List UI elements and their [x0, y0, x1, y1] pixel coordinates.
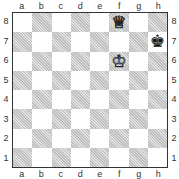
white-queen-icon[interactable]: ♕	[111, 14, 126, 31]
chess-board: ♕♚♔	[12, 12, 168, 168]
square-f5[interactable]	[109, 71, 128, 90]
rank-label-4: 4	[1, 90, 11, 110]
square-a6[interactable]	[13, 52, 32, 71]
square-b4[interactable]	[32, 90, 51, 109]
file-label-g: g	[129, 169, 149, 179]
square-f1[interactable]	[109, 148, 128, 167]
square-c5[interactable]	[52, 71, 71, 90]
file-label-e: e	[90, 169, 110, 179]
square-d2[interactable]	[71, 129, 90, 148]
file-label-g: g	[129, 1, 149, 11]
square-e4[interactable]	[90, 90, 109, 109]
file-label-h: h	[149, 169, 169, 179]
rank-label-8: 8	[169, 12, 179, 32]
square-c1[interactable]	[52, 148, 71, 167]
square-d6[interactable]	[71, 52, 90, 71]
square-h4[interactable]	[148, 90, 167, 109]
square-e8[interactable]	[90, 13, 109, 32]
rank-label-8: 8	[1, 12, 11, 32]
square-e3[interactable]	[90, 109, 109, 128]
square-d1[interactable]	[71, 148, 90, 167]
square-g5[interactable]	[129, 71, 148, 90]
square-h8[interactable]	[148, 13, 167, 32]
square-c4[interactable]	[52, 90, 71, 109]
square-f8[interactable]: ♕	[109, 13, 128, 32]
file-label-c: c	[51, 169, 71, 179]
square-b1[interactable]	[32, 148, 51, 167]
square-a5[interactable]	[13, 71, 32, 90]
rank-label-2: 2	[1, 129, 11, 149]
square-g3[interactable]	[129, 109, 148, 128]
square-a8[interactable]	[13, 13, 32, 32]
rank-label-3: 3	[1, 110, 11, 130]
square-g7[interactable]	[129, 32, 148, 51]
square-f4[interactable]	[109, 90, 128, 109]
file-label-c: c	[51, 1, 71, 11]
square-h1[interactable]	[148, 148, 167, 167]
square-a7[interactable]	[13, 32, 32, 51]
file-label-b: b	[32, 1, 52, 11]
square-e7[interactable]	[90, 32, 109, 51]
square-a3[interactable]	[13, 109, 32, 128]
square-c7[interactable]	[52, 32, 71, 51]
file-label-a: a	[12, 1, 32, 11]
rank-label-5: 5	[1, 71, 11, 91]
square-g2[interactable]	[129, 129, 148, 148]
square-e1[interactable]	[90, 148, 109, 167]
square-b7[interactable]	[32, 32, 51, 51]
square-d8[interactable]	[71, 13, 90, 32]
rank-label-6: 6	[169, 51, 179, 71]
square-b8[interactable]	[32, 13, 51, 32]
square-f3[interactable]	[109, 109, 128, 128]
file-label-d: d	[71, 1, 91, 11]
square-h3[interactable]	[148, 109, 167, 128]
square-g1[interactable]	[129, 148, 148, 167]
square-d5[interactable]	[71, 71, 90, 90]
file-label-h: h	[149, 1, 169, 11]
square-c2[interactable]	[52, 129, 71, 148]
square-b3[interactable]	[32, 109, 51, 128]
black-king-icon[interactable]: ♚	[150, 33, 165, 50]
square-c8[interactable]	[52, 13, 71, 32]
file-label-f: f	[110, 1, 130, 11]
file-label-b: b	[32, 169, 52, 179]
rank-label-1: 1	[1, 149, 11, 169]
square-a1[interactable]	[13, 148, 32, 167]
square-g4[interactable]	[129, 90, 148, 109]
square-g8[interactable]	[129, 13, 148, 32]
rank-label-3: 3	[169, 110, 179, 130]
rank-label-6: 6	[1, 51, 11, 71]
square-c3[interactable]	[52, 109, 71, 128]
file-label-e: e	[90, 1, 110, 11]
square-b2[interactable]	[32, 129, 51, 148]
white-king-icon[interactable]: ♔	[111, 53, 126, 70]
square-e6[interactable]	[90, 52, 109, 71]
square-a4[interactable]	[13, 90, 32, 109]
square-f7[interactable]	[109, 32, 128, 51]
file-label-f: f	[110, 169, 130, 179]
square-g6[interactable]	[129, 52, 148, 71]
square-f6[interactable]: ♔	[109, 52, 128, 71]
square-d4[interactable]	[71, 90, 90, 109]
rank-label-7: 7	[169, 32, 179, 52]
file-label-d: d	[71, 169, 91, 179]
square-d3[interactable]	[71, 109, 90, 128]
square-d7[interactable]	[71, 32, 90, 51]
square-h2[interactable]	[148, 129, 167, 148]
square-h6[interactable]	[148, 52, 167, 71]
rank-label-4: 4	[169, 90, 179, 110]
square-a2[interactable]	[13, 129, 32, 148]
square-e5[interactable]	[90, 71, 109, 90]
square-c6[interactable]	[52, 52, 71, 71]
rank-label-7: 7	[1, 32, 11, 52]
square-h7[interactable]: ♚	[148, 32, 167, 51]
rank-label-5: 5	[169, 71, 179, 91]
square-b6[interactable]	[32, 52, 51, 71]
file-label-a: a	[12, 169, 32, 179]
rank-label-2: 2	[169, 129, 179, 149]
square-f2[interactable]	[109, 129, 128, 148]
rank-label-1: 1	[169, 149, 179, 169]
square-b5[interactable]	[32, 71, 51, 90]
square-h5[interactable]	[148, 71, 167, 90]
square-e2[interactable]	[90, 129, 109, 148]
